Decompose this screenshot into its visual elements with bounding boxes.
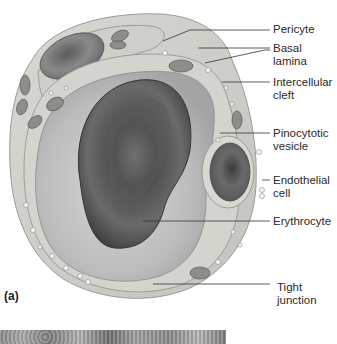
label-erythrocyte: Erythrocyte xyxy=(273,215,331,228)
small-erythrocyte xyxy=(210,143,250,201)
micrograph-strip xyxy=(0,330,226,344)
label-pericyte: Pericyte xyxy=(273,23,315,36)
label-intercellular-cleft: Intercellular cleft xyxy=(273,76,332,102)
panel-label: (a) xyxy=(4,289,19,303)
label-endothelial-cell: Endothelial cell xyxy=(273,174,330,200)
label-tight-junction: Tight junction xyxy=(277,281,317,307)
label-basal-lamina: Basal lamina xyxy=(273,42,307,68)
capillary-figure: Pericyte Basal lamina Intercellular clef… xyxy=(0,0,337,344)
label-pinocytotic-vesicle: Pinocytotic vesicle xyxy=(273,127,329,153)
